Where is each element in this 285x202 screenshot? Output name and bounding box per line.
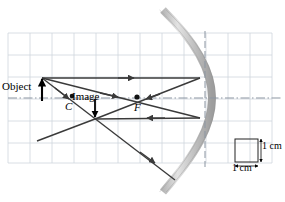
center-of-curvature-label: C xyxy=(65,101,72,112)
object-label: Object xyxy=(2,81,31,92)
scale-vertical-label: 1 cm xyxy=(262,141,282,151)
concave-mirror xyxy=(160,10,216,192)
reflected-ray-extension xyxy=(37,119,95,141)
arrow-focal-incident xyxy=(100,93,118,97)
scale-horizontal-label: 1 cm xyxy=(232,163,252,173)
arrow-center-ray-upper xyxy=(55,88,69,99)
ray-diagram-figure: Object Image C F 1 cm 1 cm xyxy=(0,0,285,202)
focal-point-label: F xyxy=(134,102,141,113)
focal-incident-ray xyxy=(42,78,200,118)
focal-point xyxy=(134,94,139,99)
image-label: Image xyxy=(72,91,99,102)
arrow-center-ray-lower xyxy=(140,152,155,163)
